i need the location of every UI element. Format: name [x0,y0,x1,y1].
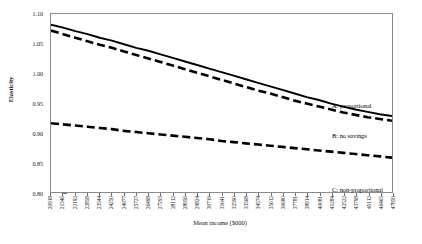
y-axis-title: Elasticity [7,60,14,120]
x-tick-label: 33568 [243,196,249,209]
x-tick-mark [381,193,382,196]
x-tick-label: 26498 [145,196,151,209]
series-label-c: C: non-proportional [332,186,383,193]
x-tick-mark [160,193,161,196]
y-tick-label: 1.05 [33,40,43,47]
x-tick-mark [258,193,259,196]
x-tick-label: 28112 [170,196,176,209]
x-tick-mark [332,193,333,196]
x-tick-label: 36680 [280,196,286,209]
x-tick-mark [246,193,247,196]
x-tick-label: 43798 [353,196,359,209]
y-tick-label: 0.80 [33,190,43,197]
x-tick-label: 45112 [366,196,372,209]
x-tick-mark [320,193,321,196]
x-tick-mark [124,193,125,196]
x-tick-mark [111,193,112,196]
x-tick-label: 23544 [96,196,102,209]
x-tick-label: 25727 [133,196,139,209]
x-tick-mark [222,193,223,196]
x-tick-mark [185,193,186,196]
x-tick-label: 22858 [84,196,90,209]
x-tick-mark [173,193,174,196]
x-tick-label: 20918 [47,196,53,209]
x-tick-mark [148,193,149,196]
x-tick-mark [75,193,76,196]
x-tick-label: 47859 [390,196,396,209]
x-tick-mark [369,193,370,196]
y-axis-tick-labels: 0.800.850.900.951.001.051.10 [18,13,48,193]
x-tick-label: 35612 [268,196,274,209]
series-label-b: B: no savings [332,132,367,139]
x-tick-label: 42522 [341,196,347,209]
x-tick-label: 32590 [231,196,237,209]
x-tick-label: 28956 [182,196,188,209]
x-tick-mark [197,193,198,196]
x-tick-label: 27293 [157,196,163,209]
x-tick-label: 46465 [378,196,384,209]
x-tick-mark [356,193,357,196]
x-tick-label: 37781 [292,196,298,209]
series-label-a: A: proportional [332,102,372,109]
plot-area: A: proportional B: no savings C: non-pro… [50,13,393,193]
series-line-C [51,123,392,157]
y-tick-label: 0.90 [33,130,43,137]
x-axis-title: Mean income ($000) [150,219,290,226]
x-tick-label: 22192 [72,196,78,209]
x-tick-label: 34574 [255,196,261,209]
y-tick-label: 1.00 [33,70,43,77]
x-tick-mark [283,193,284,196]
x-tick-label: 30719 [206,196,212,209]
y-tick-label: 0.85 [33,160,43,167]
x-tick-label: 41284 [329,196,335,209]
x-tick-mark [209,193,210,196]
x-tick-mark [234,193,235,196]
x-tick-mark [307,193,308,196]
x-tick-mark [295,193,296,196]
x-tick-mark [99,193,100,196]
x-tick-label: 31641 [219,196,225,209]
x-tick-mark [393,193,394,196]
x-tick-label: 24250 [108,196,114,209]
x-tick-mark [136,193,137,196]
x-tick-label: 29824 [194,196,200,209]
x-tick-mark [50,193,51,196]
x-tick-label: 21546 [59,196,65,209]
chart-figure: Elasticity 0.800.850.900.951.001.051.10 … [0,0,422,244]
x-tick-mark [344,193,345,196]
x-tick-mark [62,193,63,196]
x-tick-label: 40081 [317,196,323,209]
y-tick-label: 1.10 [33,10,43,17]
x-tick-label: 38914 [304,196,310,209]
y-tick-label: 0.95 [33,100,43,107]
x-tick-mark [271,193,272,196]
x-tick-label: 24977 [121,196,127,209]
x-tick-mark [87,193,88,196]
